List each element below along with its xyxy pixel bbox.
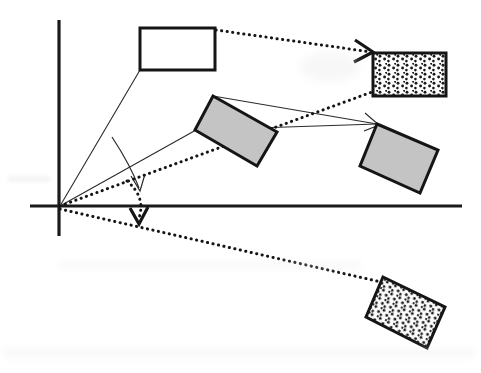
thin-line-origin-to-gray-middle-rect: [60, 130, 196, 206]
diagram-svg: [0, 0, 481, 373]
thin-line-origin-to-white-rect: [60, 70, 140, 206]
gray-rectangle-middle: [195, 96, 277, 166]
stippled-rectangle-upper-right: [373, 53, 446, 96]
shapes-group: [140, 28, 446, 348]
stippled-rectangle-lower-right: [366, 277, 445, 348]
white-rectangle-upper-left: [140, 28, 215, 70]
diagram-canvas: [0, 0, 481, 373]
dotted-line-white-rect-to-stippled-upper-right: [216, 30, 371, 52]
dotted-connector-group: [60, 30, 381, 282]
solid-angle-marker: [112, 137, 145, 191]
gray-rectangle-right: [360, 124, 438, 193]
dotted-line-arrowhead-stippled-upper-right: [354, 40, 373, 62]
solid-angle-arc: [112, 137, 139, 188]
dotted-line-origin-to-stippled-lower-right: [60, 209, 381, 282]
